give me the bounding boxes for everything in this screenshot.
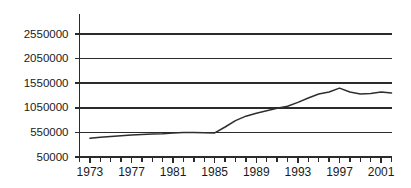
- y-tick-label: 2550000: [24, 28, 69, 40]
- y-tick-label: 2050000: [24, 52, 69, 64]
- y-tick-labels-group: 500005500001050000155000020500002550000: [24, 28, 69, 163]
- x-tick-label: 1985: [201, 165, 228, 179]
- line-chart: 500005500001050000155000020500002550000 …: [0, 0, 411, 188]
- x-tick-label: 1989: [243, 165, 270, 179]
- x-tick-label: 1973: [77, 165, 104, 179]
- y-tick-label: 1550000: [24, 77, 69, 89]
- y-tick-label: 550000: [30, 126, 68, 138]
- chart-canvas: 500005500001050000155000020500002550000 …: [0, 0, 411, 188]
- gridlines-group: [80, 34, 392, 132]
- series-line: [90, 88, 392, 138]
- x-tick-label: 2001: [368, 165, 395, 179]
- x-tick-label: 1993: [285, 165, 312, 179]
- x-tick-labels-group: 19731977198119851989199319972001: [77, 165, 395, 179]
- x-tick-label: 1977: [118, 165, 145, 179]
- data-series-group: [90, 88, 392, 138]
- y-tick-label: 1050000: [24, 101, 69, 113]
- y-tick-label: 50000: [37, 151, 69, 163]
- x-tick-label: 1997: [326, 165, 353, 179]
- x-tick-label: 1981: [160, 165, 187, 179]
